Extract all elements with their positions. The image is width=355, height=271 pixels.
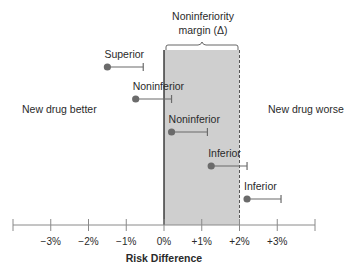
interval-label: Noninferior (169, 113, 221, 125)
x-tick-label: +2% (229, 236, 249, 247)
point-estimate-dot (104, 63, 111, 70)
noninferiority-margin-region (164, 50, 240, 225)
x-tick-label: +3% (267, 236, 287, 247)
point-estimate-dot (208, 162, 215, 169)
interval-row: Inferior (208, 147, 247, 170)
x-axis: −3%−2%−1%0%+1%+2%+3% (13, 219, 315, 247)
x-tick-label: −1% (116, 236, 136, 247)
x-tick-label: −2% (78, 236, 98, 247)
point-estimate-dot (132, 95, 139, 102)
x-axis-label: Risk Difference (126, 252, 203, 264)
margin-bracket (166, 42, 238, 50)
margin-label-line2: margin (Δ) (178, 24, 227, 36)
interval-label: Noninferior (133, 80, 185, 92)
interval-row: Superior (104, 48, 145, 71)
interval-label: Superior (104, 48, 144, 60)
interval-label: Inferior (244, 180, 277, 192)
region-label-right: New drug worse (268, 103, 344, 115)
interval-row: Inferior (243, 180, 281, 203)
interval-label: Inferior (208, 147, 241, 159)
x-tick-label: −3% (41, 236, 61, 247)
noninferiority-chart: Noninferiority margin (Δ) New drug bette… (0, 0, 355, 271)
x-tick-label: 0% (157, 236, 172, 247)
point-estimate-dot (243, 195, 250, 202)
margin-label-line1: Noninferiority (172, 10, 235, 22)
x-tick-label: +1% (192, 236, 212, 247)
region-label-left: New drug better (22, 103, 97, 115)
point-estimate-dot (168, 128, 175, 135)
